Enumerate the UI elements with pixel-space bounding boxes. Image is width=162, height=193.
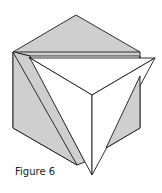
folded-paper-cube-figure bbox=[0, 0, 162, 193]
vertex-dot bbox=[29, 57, 31, 59]
cube-top-face bbox=[13, 15, 140, 56]
figure-caption: Figure 6 bbox=[15, 166, 55, 177]
